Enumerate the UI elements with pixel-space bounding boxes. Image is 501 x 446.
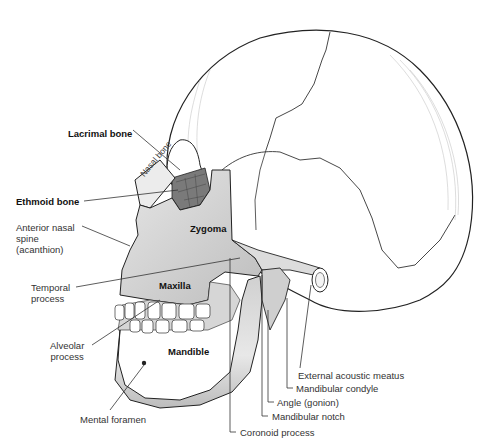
label-alveolar-process: Alveolar process [50, 340, 84, 362]
label-maxilla: Maxilla [159, 280, 191, 291]
leader-condyle [287, 298, 293, 388]
label-mandibular-notch: Mandibular notch [272, 411, 345, 422]
label-lacrimal-bone: Lacrimal bone [68, 128, 132, 139]
label-anterior-nasal-spine: Anterior nasal spine (acanthion) [16, 222, 75, 255]
leader-ant-nasal [82, 226, 130, 246]
label-zygoma: Zygoma [190, 223, 226, 234]
label-external-acoustic-meatus: External acoustic meatus [298, 370, 404, 381]
label-angle-gonion: Angle (gonion) [277, 397, 339, 408]
skull-illustration [0, 0, 501, 446]
label-mandible: Mandible [168, 346, 209, 357]
leader-mental [110, 365, 144, 410]
label-mental-foramen: Mental foramen [80, 414, 146, 425]
label-coronoid-process: Coronoid process [240, 427, 314, 438]
label-ethmoid-bone: Ethmoid bone [16, 196, 79, 207]
leader-ethmoid [84, 190, 178, 201]
label-temporal-process: Temporal process [31, 282, 70, 304]
label-mandibular-condyle: Mandibular condyle [296, 383, 378, 394]
